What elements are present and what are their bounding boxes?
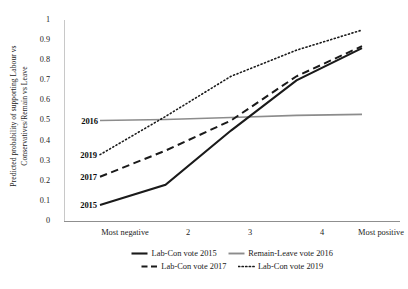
series-annotation-2015: 2015	[80, 201, 97, 210]
plot-area: 0 0.1 0.2 0.3 0.4 0.5 0.6 0.7 0.8 0.9 1 …	[64, 20, 400, 221]
series-annotation-2016: 2016	[81, 116, 98, 125]
legend-label-lab-con-2017: Lab-Con vote 2017	[161, 261, 226, 273]
series-line-lab-con-2017	[100, 46, 362, 177]
legend-row-2: Lab-Con vote 2017 Lab-Con vote 2019	[64, 260, 400, 273]
series-line-lab-con-2015	[100, 48, 362, 205]
y-tick-label-3: 0.3	[10, 157, 50, 165]
y-tick-label-2: 0.2	[10, 177, 50, 185]
x-tick-label-3: 4	[320, 228, 324, 237]
legend-label-lab-con-2015: Lab-Con vote 2015	[152, 248, 217, 260]
legend-item-lab-con-2015: Lab-Con vote 2015	[131, 247, 217, 260]
x-tick-label-1: 2	[186, 228, 190, 237]
legend-item-lab-con-2019: Lab-Con vote 2019	[238, 260, 324, 273]
legend-label-lab-con-2019: Lab-Con vote 2019	[258, 261, 323, 273]
x-tick-label-0: Most negative	[101, 228, 149, 237]
x-tick-label-2: 3	[248, 228, 252, 237]
series-annotation-2017: 2017	[80, 173, 97, 182]
legend-item-remain-leave-2016: Remain-Leave vote 2016	[228, 247, 333, 260]
series-line-remain-leave-2016	[100, 114, 362, 120]
x-axis-line	[64, 221, 400, 222]
y-tick-label-7: 0.7	[10, 76, 50, 84]
series-lines	[64, 20, 400, 221]
series-annotation-2019: 2019	[80, 151, 97, 160]
legend-row-1: Lab-Con vote 2015 Remain-Leave vote 2016	[64, 247, 400, 260]
x-tick-label-4: Most positive	[358, 228, 404, 237]
chart-legend: Lab-Con vote 2015 Remain-Leave vote 2016…	[64, 247, 400, 277]
y-tick-label-9: 0.9	[10, 36, 50, 44]
y-tick-label-5: 0.5	[10, 116, 50, 124]
series-line-lab-con-2019	[100, 30, 362, 155]
solid-line-icon	[131, 249, 148, 258]
y-tick-label-6: 0.6	[10, 96, 50, 104]
legend-label-remain-leave-2016: Remain-Leave vote 2016	[248, 248, 333, 260]
solid-gray-line-icon	[228, 249, 245, 258]
chart-figure: Predicted probability of supporting Labo…	[0, 0, 408, 289]
y-tick-label-8: 0.8	[10, 56, 50, 64]
y-tick-label-4: 0.4	[10, 137, 50, 145]
y-tick-label-10: 1	[10, 16, 50, 24]
legend-item-lab-con-2017: Lab-Con vote 2017	[141, 260, 227, 273]
dashed-line-icon	[141, 262, 158, 271]
y-tick-label-1: 0.1	[10, 197, 50, 205]
dotted-line-icon	[238, 262, 255, 271]
y-tick-label-0: 0	[10, 217, 50, 225]
